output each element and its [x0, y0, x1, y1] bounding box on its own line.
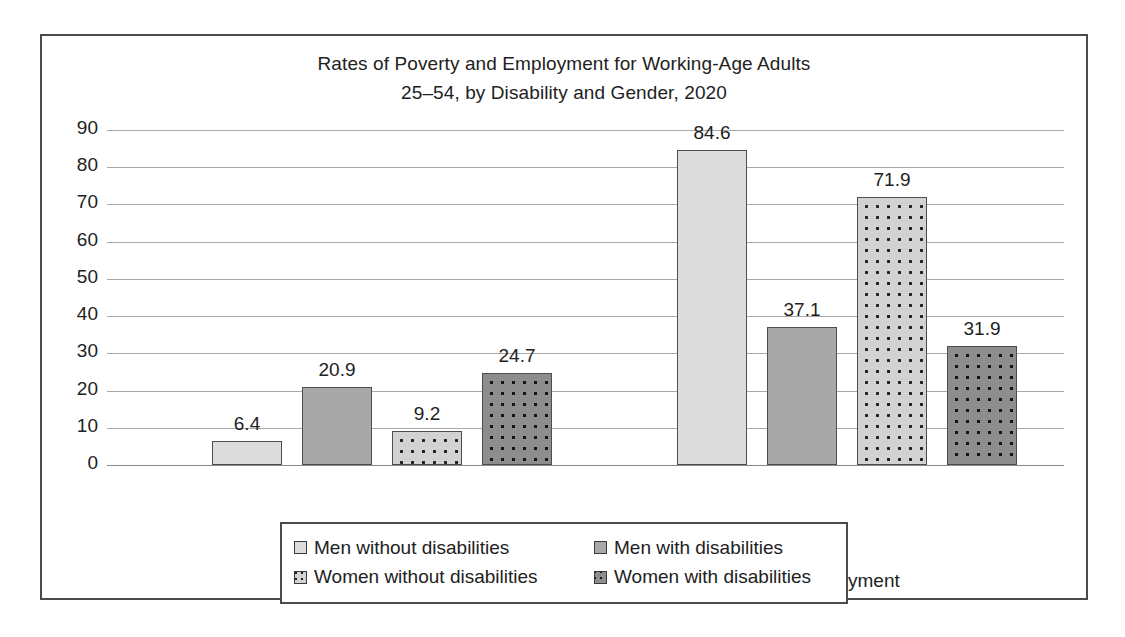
bar-value-label: 31.9: [922, 318, 1042, 340]
bar-value-label: 37.1: [742, 299, 862, 321]
bars-layer: 6.420.99.224.784.637.171.931.9: [107, 130, 1064, 465]
plot-area: 0102030405060708090 6.420.99.224.784.637…: [107, 130, 1064, 465]
bar: [302, 387, 372, 465]
legend-item-men-with-disabilities: Men with disabilities: [594, 533, 834, 562]
legend-swatch-icon: [594, 571, 607, 584]
legend-label: Men without disabilities: [314, 533, 509, 562]
chart-frame: Rates of Poverty and Employment for Work…: [40, 34, 1088, 600]
y-axis-tick-label: 60: [77, 228, 98, 250]
legend-swatch-icon: [294, 541, 307, 554]
legend-row: Women without disabilities Women with di…: [294, 562, 834, 591]
bar-value-label: 6.4: [187, 413, 307, 435]
bar: [677, 150, 747, 465]
legend-label: Women with disabilities: [614, 562, 811, 591]
legend-label: Women without disabilities: [314, 562, 538, 591]
y-axis-tick-label: 70: [77, 191, 98, 213]
y-axis-tick-label: 50: [77, 266, 98, 288]
legend-label: Men with disabilities: [614, 533, 783, 562]
bar: [857, 197, 927, 465]
bar-value-label: 20.9: [277, 359, 397, 381]
legend-row: Men without disabilities Men with disabi…: [294, 533, 834, 562]
legend-item-women-without-disabilities: Women without disabilities: [294, 562, 594, 591]
chart-legend: Men without disabilities Men with disabi…: [280, 522, 848, 604]
y-axis-tick-label: 90: [77, 117, 98, 139]
legend-swatch-icon: [294, 571, 307, 584]
legend-item-men-without-disabilities: Men without disabilities: [294, 533, 594, 562]
legend-item-women-with-disabilities: Women with disabilities: [594, 562, 834, 591]
y-axis-tick-label: 0: [87, 452, 98, 474]
bar-value-label: 84.6: [652, 122, 772, 144]
y-axis-tick-label: 40: [77, 303, 98, 325]
chart-title: Rates of Poverty and Employment for Work…: [42, 50, 1086, 107]
chart-screenshot: Rates of Poverty and Employment for Work…: [0, 0, 1125, 637]
bar: [767, 327, 837, 465]
y-axis-tick-label: 20: [77, 377, 98, 399]
bar: [392, 431, 462, 465]
bar: [482, 373, 552, 465]
chart-title-line-2: 25–54, by Disability and Gender, 2020: [42, 79, 1086, 108]
y-axis-tick-label: 10: [77, 415, 98, 437]
bar-value-label: 71.9: [832, 169, 952, 191]
y-axis-tick-label: 80: [77, 154, 98, 176]
bar: [947, 346, 1017, 465]
bar: [212, 441, 282, 465]
y-axis-tick-label: 30: [77, 340, 98, 362]
legend-swatch-icon: [594, 541, 607, 554]
bar-value-label: 9.2: [367, 403, 487, 425]
chart-title-line-1: Rates of Poverty and Employment for Work…: [318, 53, 811, 74]
bar-value-label: 24.7: [457, 345, 577, 367]
axis-baseline: [107, 465, 1064, 466]
